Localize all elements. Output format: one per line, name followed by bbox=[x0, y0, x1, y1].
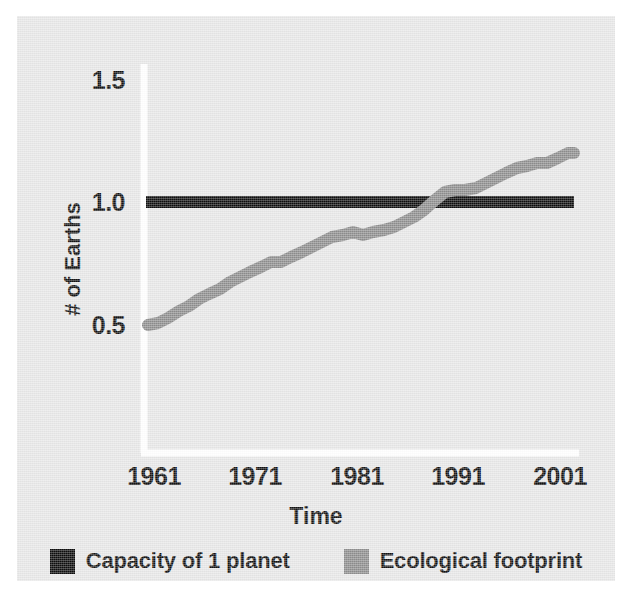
gray-square-swatch bbox=[344, 549, 369, 574]
chart-canvas bbox=[17, 16, 615, 581]
x-tick-label-1961: 1961 bbox=[109, 464, 199, 489]
legend-item-ecological-footprint[interactable]: Ecological footprint bbox=[344, 548, 583, 574]
series-line-ecological-footprint bbox=[148, 153, 574, 325]
legend-label-capacity-of-1-planet: Capacity of 1 planet bbox=[86, 548, 290, 574]
x-tick-label-1981: 1981 bbox=[312, 464, 402, 489]
x-tick-label-2001: 2001 bbox=[515, 464, 605, 489]
black-square-swatch bbox=[50, 549, 75, 574]
y-tick-label-1-5: 1.5 bbox=[43, 68, 125, 93]
legend-label-ecological-footprint: Ecological footprint bbox=[380, 548, 583, 574]
legend-item-capacity-of-1-planet[interactable]: Capacity of 1 planet bbox=[50, 548, 290, 574]
plot-area: 1.5 1.0 0.5 1961 1971 1981 1991 2001 # o… bbox=[17, 16, 615, 581]
x-tick-label-1971: 1971 bbox=[210, 464, 300, 489]
chart-legend: Capacity of 1 planet Ecological footprin… bbox=[17, 548, 615, 574]
y-axis-title: # of Earths bbox=[60, 159, 86, 359]
x-axis-title: Time bbox=[17, 503, 615, 530]
figure-panel: 1.5 1.0 0.5 1961 1971 1981 1991 2001 # o… bbox=[17, 16, 615, 581]
x-tick-label-1991: 1991 bbox=[413, 464, 503, 489]
